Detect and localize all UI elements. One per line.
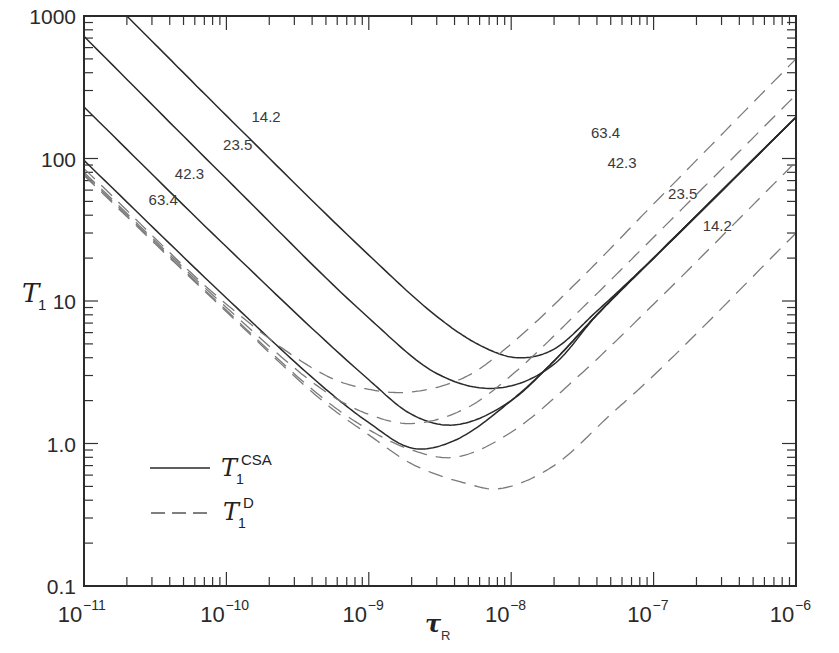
y-tick-label: 1000 [29,5,76,28]
x-tick-label: 10 [627,602,651,627]
y-tick-label: 100 [41,148,76,171]
y-tick-label: 1.0 [47,433,76,456]
legend-csa-sub: 1 [236,471,244,487]
legend-d-sup: D [243,494,254,511]
curve-label: 63.4 [149,191,178,208]
x-tick-exponent: −10 [225,597,249,613]
x-tick-label: 10 [485,602,509,627]
curve-label: 14.2 [251,108,280,125]
curve-label: 23.5 [668,185,697,202]
legend-d-sub: 1 [238,515,246,531]
x-tick-exponent: −8 [510,597,526,613]
legend: T 1 CSA T 1 D [150,451,272,531]
legend-csa-sup: CSA [241,451,272,468]
plot-frame [84,16,796,586]
curve-label: 23.5 [223,136,252,153]
csa-curve [84,107,796,425]
x-tick-exponent: −9 [368,597,384,613]
x-axis-title-subscript: R [441,628,450,643]
curves [84,16,796,489]
x-tick-label: 10 [58,602,82,627]
t1-vs-tau-chart: 10−1110−1010−910−810−710−60.11.010100100… [0,0,839,653]
x-tick-label: 10 [343,602,367,627]
dipolar-curve [84,59,796,393]
y-axis-title-subscript: 1 [38,296,46,313]
x-tick-exponent: −7 [653,597,669,613]
x-tick-label: 10 [770,602,794,627]
curve-label: 42.3 [607,154,636,171]
curve-label: 63.4 [591,124,620,141]
dipolar-curve [84,162,796,458]
curve-label: 14.2 [703,217,732,234]
x-axis-title: τ [425,609,442,638]
x-tick-exponent: −6 [795,597,811,613]
axis-ticks [84,16,796,586]
x-tick-exponent: −11 [83,597,106,613]
x-tick-label: 10 [200,602,224,627]
curve-labels: 14.223.542.363.463.442.323.514.2 [149,108,732,234]
y-tick-label: 0.1 [47,575,76,598]
curve-label: 42.3 [175,165,204,182]
y-tick-label: 10 [53,290,76,313]
